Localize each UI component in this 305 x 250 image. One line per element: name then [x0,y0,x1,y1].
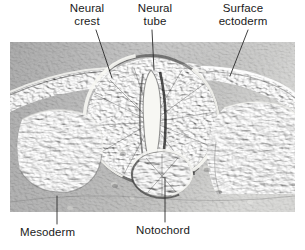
label-surface-ectoderm-line2: ectoderm [203,15,283,28]
label-neural-tube-line2: tube [128,15,182,28]
label-neural-crest-line2: crest [56,15,118,28]
label-neural-tube: Neural tube [128,2,182,28]
label-surface-ectoderm: Surface ectoderm [203,2,283,28]
micrograph-image [10,42,295,212]
label-mesoderm: Mesoderm [20,226,100,239]
label-mesoderm-line1: Mesoderm [20,226,100,239]
label-notochord: Notochord [136,224,216,237]
label-neural-crest-line1: Neural [56,2,118,15]
label-neural-crest: Neural crest [56,2,118,28]
micrograph-photo-frame [10,42,295,212]
label-neural-tube-line1: Neural [128,2,182,15]
label-notochord-line1: Notochord [136,224,216,237]
micrograph-figure: Neural crest Neural tube Surface ectoder… [0,0,305,250]
label-surface-ectoderm-line1: Surface [203,2,283,15]
